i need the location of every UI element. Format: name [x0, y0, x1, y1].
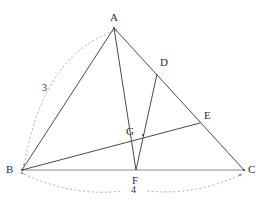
measure-arc-BC-right [147, 174, 242, 192]
segment-AF [114, 28, 136, 170]
vertex-dot-A [113, 27, 115, 29]
measure-label-side-ab: 3 [42, 83, 47, 93]
vertex-label-D: D [160, 57, 168, 68]
segment-AB [22, 28, 114, 170]
segment-BE [22, 123, 200, 170]
vertex-label-A: A [110, 12, 118, 23]
figure-canvas [0, 0, 260, 203]
segment-AC [114, 28, 244, 170]
vertex-label-B: B [6, 164, 13, 175]
vertex-label-C: C [248, 164, 255, 175]
vertex-dot-C [243, 169, 245, 171]
vertex-label-E: E [204, 110, 211, 121]
vertex-dot-B [21, 169, 23, 171]
vertex-label-G: G [126, 126, 134, 137]
segment-DF [136, 74, 157, 170]
measure-arc-BC-left [24, 174, 122, 192]
geometry-figure: A B C D E F G 3 4 [0, 0, 260, 203]
measure-label-side-bc: 4 [131, 185, 136, 195]
vertex-dot-G [142, 134, 144, 136]
